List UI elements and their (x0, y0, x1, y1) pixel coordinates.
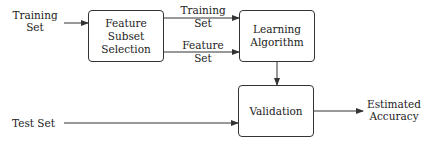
training-set-input-label: Training Set (10, 9, 60, 33)
label-line: Estimated (364, 98, 424, 110)
label-line: Feature (178, 39, 228, 51)
label-line: Set (10, 21, 60, 33)
label-line: Set (178, 17, 228, 29)
test-set-input-label: Test Set (12, 117, 62, 129)
node-label-line: Algorithm (250, 36, 303, 49)
training-set-edge-label: Training Set (178, 4, 228, 29)
validation-node: Validation (238, 85, 314, 137)
node-label-line: Learning (250, 23, 303, 36)
label-line: Set (178, 52, 228, 64)
label-line: Accuracy (364, 110, 424, 122)
feature-subset-selection-node: Feature Subset Selection (88, 10, 164, 62)
label-line: Training (10, 9, 60, 21)
label-text: Test Set (12, 117, 55, 129)
learning-algorithm-node: Learning Algorithm (239, 10, 315, 62)
label-line: Training (178, 4, 228, 16)
node-label-line: Feature Subset (89, 17, 163, 43)
estimated-accuracy-output-label: Estimated Accuracy (364, 98, 424, 122)
node-label: Validation (249, 105, 302, 118)
feature-set-edge-label: Feature Set (178, 39, 228, 64)
node-label-line: Selection (89, 43, 163, 56)
